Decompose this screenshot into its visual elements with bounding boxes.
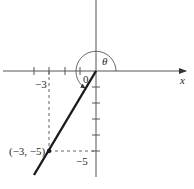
x-axis-label: x: [179, 74, 185, 86]
x-tick-label-neg3: −3: [35, 78, 47, 90]
point-label: (−3, −5): [9, 145, 46, 158]
diagram-canvas: −3 −5 x (−3, −5) 0 θ: [0, 0, 194, 189]
y-tick-label-neg5: −5: [76, 155, 88, 167]
angle-theta-label: θ: [102, 55, 108, 67]
point-marker: [47, 149, 51, 153]
origin-label: 0: [83, 73, 89, 85]
